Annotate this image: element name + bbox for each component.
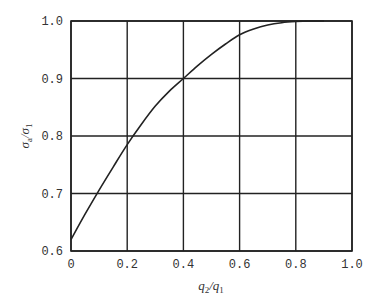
grid-lines xyxy=(71,21,352,251)
x-tick-label: 0.4 xyxy=(173,258,195,272)
x-tick-label: 0 xyxy=(67,258,74,272)
x-tick-label: 0.8 xyxy=(285,258,307,272)
y-tick-label: 0.7 xyxy=(41,188,63,202)
x-tick-label: 0.2 xyxy=(116,258,138,272)
x-tick-labels: 00.20.40.60.81.0 xyxy=(67,258,362,272)
y-tick-label: 0.6 xyxy=(41,245,63,259)
x-tick-label: 0.6 xyxy=(229,258,251,272)
y-axis-label: σa/σ1 xyxy=(17,124,34,149)
x-tick-label: 1.0 xyxy=(341,258,363,272)
y-tick-label: 0.8 xyxy=(41,130,63,144)
y-tick-label: 0.9 xyxy=(41,73,63,87)
chart: 00.20.40.60.81.0 0.60.70.80.91.0 q2/q1 σ… xyxy=(0,0,381,307)
y-tick-label: 1.0 xyxy=(41,15,63,29)
y-tick-labels: 0.60.70.80.91.0 xyxy=(41,15,63,259)
x-axis-label: q2/q1 xyxy=(198,278,224,295)
data-curve xyxy=(71,21,324,240)
